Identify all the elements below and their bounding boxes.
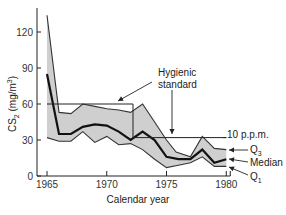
hygienic-standard-pointer-upper bbox=[118, 82, 152, 101]
y-tick-label: 0 bbox=[27, 171, 33, 182]
q3-label: Q3 bbox=[250, 144, 262, 157]
interquartile-band bbox=[47, 15, 226, 167]
iqr-band-area bbox=[47, 15, 226, 167]
x-tick-label: 1980 bbox=[215, 179, 238, 190]
hygienic-standard-label: Hygienic bbox=[158, 67, 196, 78]
y-tick-label: 60 bbox=[22, 99, 34, 110]
y-tick-label: 90 bbox=[22, 63, 34, 74]
ten-ppm-label: 10 p.p.m. bbox=[227, 129, 269, 140]
median-label: Median bbox=[250, 157, 283, 168]
arrowhead-icon bbox=[229, 157, 234, 162]
q1-label: Q1 bbox=[250, 171, 262, 184]
y-tick-label: 120 bbox=[16, 27, 33, 38]
y-axis-label: CS2 (mg/m3) bbox=[6, 76, 20, 132]
x-tick-label: 1965 bbox=[36, 179, 59, 190]
hygienic-standard-label-line2: standard bbox=[158, 79, 197, 90]
x-tick-label: 1970 bbox=[96, 179, 119, 190]
y-tick-label: 30 bbox=[22, 135, 34, 146]
x-tick-label: 1975 bbox=[155, 179, 178, 190]
arrowhead-icon bbox=[169, 129, 174, 134]
x-axis-label: Calendar year bbox=[107, 194, 170, 205]
arrowhead-icon bbox=[229, 147, 234, 152]
chart: 03060901201965197019751980 Calendar year… bbox=[0, 0, 286, 215]
